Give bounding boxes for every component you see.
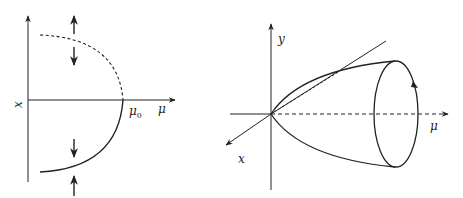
- bifurcation-figure: x μ0 μ y x μ: [0, 0, 463, 198]
- right-mu-label: μ: [430, 119, 438, 133]
- unstable-branch-dashed: [40, 35, 123, 100]
- mu0-label: μ0: [129, 104, 142, 120]
- right-x-axis: [226, 114, 271, 145]
- stable-branch-solid: [40, 100, 123, 172]
- left-x-axis-label: x: [11, 101, 25, 108]
- right-x-axis-label: x: [238, 152, 245, 166]
- left-mu-label: μ: [158, 102, 166, 116]
- left-panel: x μ0 μ: [11, 16, 175, 196]
- right-panel: y x μ: [226, 24, 448, 190]
- right-y-axis-label: y: [277, 32, 285, 46]
- cycle-direction-arrow-icon: [411, 81, 418, 88]
